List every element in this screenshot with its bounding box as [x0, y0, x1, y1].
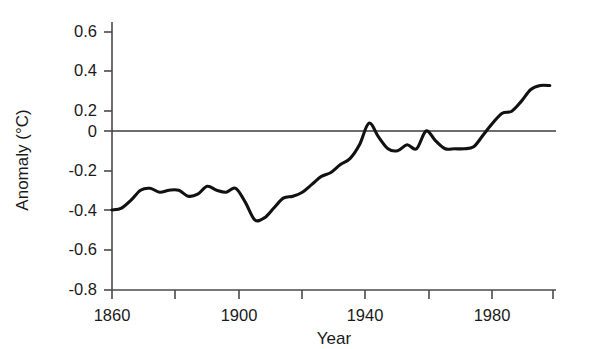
temperature-anomaly-line — [112, 85, 550, 221]
y-tick-label-0.2: 0.2 — [74, 101, 97, 119]
x-tick-label-1900: 1900 — [221, 306, 258, 324]
anomaly-line-chart: Anomaly (°C) 0.6 0.4 0.2 0 -0.2 -0.4 -0.… — [0, 0, 590, 349]
x-axis-label: Year — [317, 329, 352, 348]
y-tick-label-0.6: 0.6 — [74, 22, 97, 40]
chart-figure: Anomaly (°C) 0.6 0.4 0.2 0 -0.2 -0.4 -0.… — [0, 0, 590, 349]
y-tick-label--0.8: -0.8 — [69, 280, 97, 298]
x-tick-label-1940: 1940 — [347, 306, 384, 324]
y-tick-label--0.6: -0.6 — [69, 240, 97, 258]
y-tick-label--0.4: -0.4 — [69, 201, 97, 219]
x-tick-label-1980: 1980 — [474, 306, 511, 324]
y-tick-label--0.2: -0.2 — [69, 161, 97, 179]
y-axis-label: Anomaly (°C) — [13, 109, 32, 210]
x-tick-label-1860: 1860 — [94, 306, 131, 324]
y-tick-label-0.4: 0.4 — [74, 61, 97, 79]
y-tick-label-0: 0 — [88, 122, 97, 140]
